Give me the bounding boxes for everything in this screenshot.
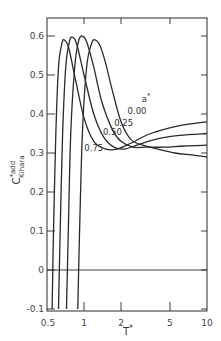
curve-label: 0.50 [103, 127, 122, 137]
x-axis-title: T* [122, 324, 133, 337]
x-tick-label: 0.5 [41, 318, 55, 328]
y-tick-label: 0.4 [30, 109, 45, 119]
curve-a-0-75 [52, 40, 207, 309]
y-tick-label: 0.1 [30, 226, 44, 236]
curve-label: 0.75 [84, 143, 103, 153]
x-tick-label: 1 [81, 318, 87, 328]
plot-frame [47, 18, 207, 311]
y-tick-label: 0.6 [30, 31, 45, 41]
y-tick-label: 0 [38, 265, 44, 275]
curve-a-0-25 [66, 36, 207, 309]
curve-label: 0.25 [114, 118, 133, 128]
x-tick-label: 5 [167, 318, 173, 328]
svg-text:C*addKihara: C*addKihara [9, 155, 26, 184]
y-axis-title: C*addKihara [9, 155, 26, 184]
y-tick-label: -0.1 [26, 304, 44, 314]
x-tick-label: 10 [201, 318, 213, 328]
y-tick-label: 0.2 [30, 187, 44, 197]
legend-title: a* [142, 92, 151, 104]
y-tick-label: 0.5 [30, 70, 44, 80]
y-axis-ticks: -0.100.10.20.30.40.50.6 [26, 31, 207, 314]
data-curves [52, 36, 207, 309]
curve-label: 0.00 [128, 106, 147, 116]
y-tick-label: 0.3 [30, 148, 44, 158]
chart: 0.512510 -0.100.10.20.30.40.50.6 a*0.000… [0, 0, 221, 341]
